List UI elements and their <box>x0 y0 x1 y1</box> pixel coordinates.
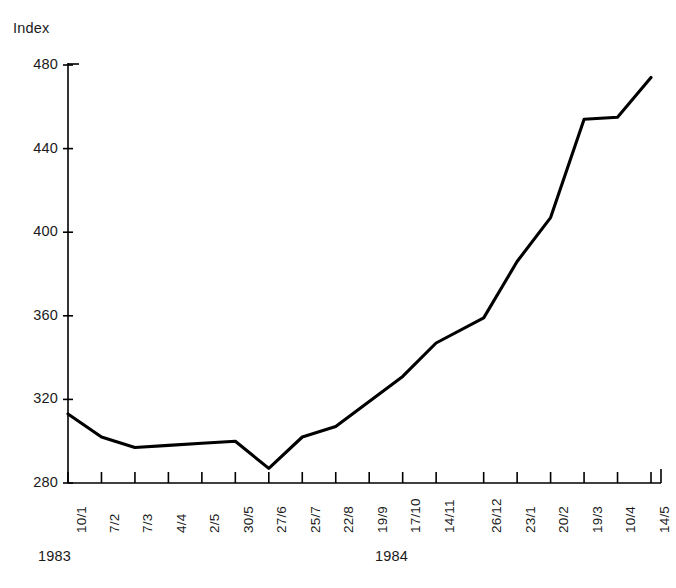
year-label-1984: 1984 <box>375 548 408 564</box>
x-axis-ticks <box>68 472 651 483</box>
data-series-line <box>68 78 651 469</box>
line-chart: Index 280320360400440480 10/17/27/34/42/… <box>0 0 676 588</box>
year-label-1983: 1983 <box>38 548 71 564</box>
chart-plot-area <box>0 0 676 588</box>
axes-group <box>63 63 661 483</box>
